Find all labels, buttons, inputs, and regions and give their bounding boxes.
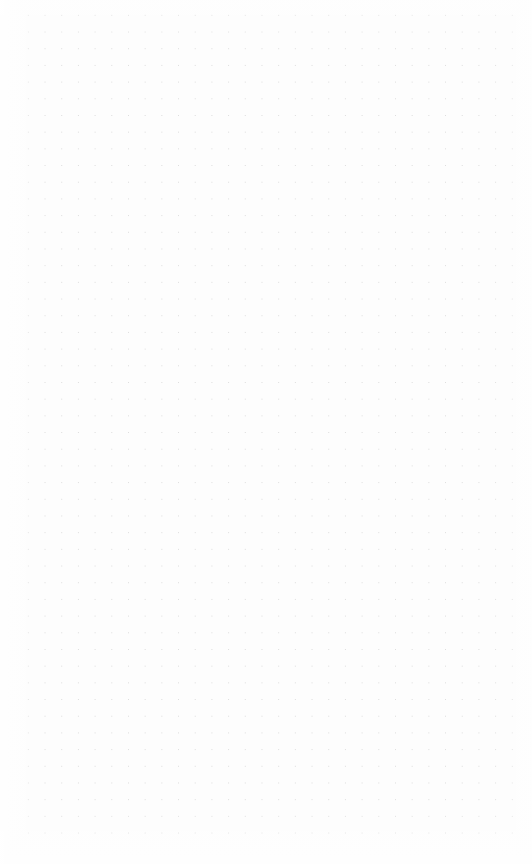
dot-grid-background[interactable] [0,0,532,864]
canvas-viewport[interactable] [0,0,532,864]
